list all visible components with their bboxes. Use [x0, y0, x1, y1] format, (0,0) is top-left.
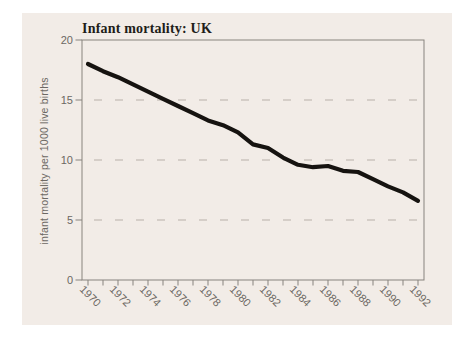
x-tick-label: 1992	[408, 283, 434, 309]
x-tick-label: 1974	[138, 283, 164, 309]
x-tick-label: 1982	[258, 283, 284, 309]
data-series-uk	[88, 64, 418, 201]
x-tick-label: 1976	[168, 283, 194, 309]
x-tick-label: 1988	[348, 283, 374, 309]
x-tick-label: 1986	[318, 283, 344, 309]
x-tick-label: 1978	[198, 283, 224, 309]
line-chart: infant mortality per 1000 live births 05…	[22, 13, 452, 325]
plot-area: 0510152019701972197419761978198019821984…	[61, 34, 434, 309]
x-tick-label: 1980	[228, 283, 254, 309]
y-tick-label: 0	[67, 274, 73, 286]
x-tick-label: 1984	[288, 283, 314, 309]
figure-page: Infant mortality: UK infant mortality pe…	[0, 0, 471, 337]
y-tick-label: 15	[61, 94, 73, 106]
y-tick-label: 20	[61, 34, 73, 46]
x-tick-label: 1970	[78, 283, 104, 309]
x-tick-label: 1990	[378, 283, 404, 309]
figure-panel: Infant mortality: UK infant mortality pe…	[22, 13, 452, 325]
y-axis-title: infant mortality per 1000 live births	[38, 77, 50, 244]
y-tick-label: 5	[67, 214, 73, 226]
y-tick-label: 10	[61, 154, 73, 166]
x-tick-label: 1972	[108, 283, 134, 309]
